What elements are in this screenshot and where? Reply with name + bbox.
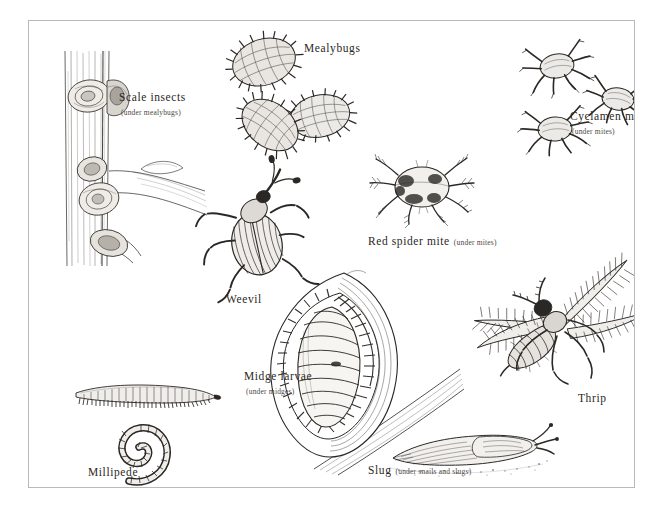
- label-cyclamen-mites: Cyclamen mites (under mites): [570, 106, 635, 136]
- label-red-spider-mite: Red spider mite(under mites): [368, 231, 497, 249]
- label-weevil-main: Weevil: [226, 293, 262, 305]
- label-thrip: Thrip: [578, 388, 607, 406]
- label-red-spider-mite-main: Red spider mite: [368, 235, 450, 247]
- label-scale-insects: Scale insects (under mealybugs): [119, 87, 186, 117]
- label-millipede: Millipede: [88, 462, 138, 480]
- scale-insects-illustration: [37, 51, 212, 266]
- illustration-plate: Scale insects (under mealybugs) Mealybug…: [28, 20, 635, 488]
- label-red-spider-mite-sub: (under mites): [454, 238, 497, 247]
- label-slug-main: Slug: [368, 464, 392, 476]
- thrip-illustration: [464, 256, 635, 406]
- label-weevil: Weevil: [226, 289, 262, 307]
- red-spider-mite-illustration: [362, 139, 487, 234]
- label-mealybugs: Mealybugs: [304, 38, 361, 56]
- label-slug: Slug(under snails and slugs): [368, 460, 471, 478]
- cyclamen-mite-1: [516, 38, 600, 103]
- label-millipede-main: Millipede: [88, 466, 138, 478]
- scale-insect-1: [66, 77, 112, 115]
- label-mealybugs-main: Mealybugs: [304, 42, 361, 54]
- label-midge-larvae-sub: (under midges): [246, 387, 312, 396]
- label-midge-larvae-main: Midge larvae: [244, 370, 312, 382]
- label-cyclamen-mites-main: Cyclamen mites: [570, 110, 635, 122]
- mealybug-1: [218, 21, 312, 102]
- cyclamen-mites-illustration: [509, 31, 635, 156]
- label-scale-insects-sub: (under mealybugs): [121, 108, 186, 117]
- label-slug-sub: (under snails and slugs): [396, 467, 472, 476]
- millipede-straight-illustration: [64, 369, 234, 414]
- label-midge-larvae: Midge larvae (under midges): [244, 366, 312, 396]
- label-thrip-main: Thrip: [578, 392, 607, 404]
- scale-insect-4: [76, 179, 122, 219]
- label-cyclamen-mites-sub: (under mites): [572, 127, 635, 136]
- label-scale-insects-main: Scale insects: [119, 91, 186, 103]
